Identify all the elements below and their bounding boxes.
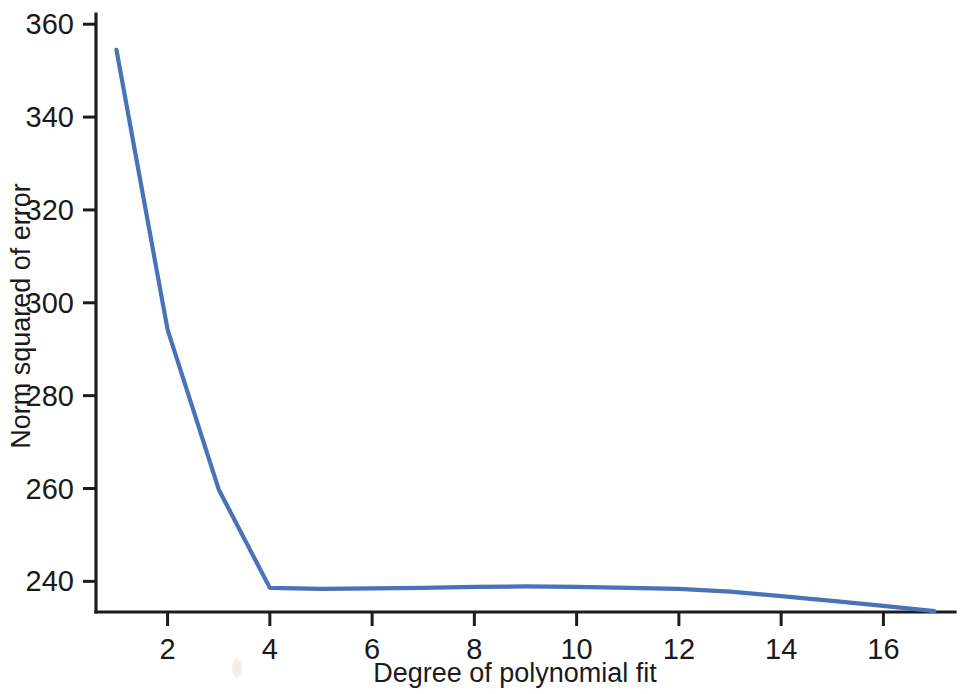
y-axis-title: Norm squared of error xyxy=(6,183,36,449)
chart-background xyxy=(0,0,969,694)
x-tick-label: 12 xyxy=(663,633,695,665)
chart-figure: 240260280300320340360 246810121416 Norm … xyxy=(0,0,969,694)
y-tick-label: 260 xyxy=(26,473,74,505)
y-tick-label: 240 xyxy=(26,565,74,597)
x-axis-title: Degree of polynomial fit xyxy=(373,658,657,688)
x-tick-label: 4 xyxy=(262,633,278,665)
y-tick-label: 340 xyxy=(26,101,74,133)
line-chart: 240260280300320340360 246810121416 Norm … xyxy=(0,0,969,694)
y-tick-label: 360 xyxy=(26,8,74,40)
x-tick-label: 16 xyxy=(867,633,899,665)
x-tick-label: 2 xyxy=(160,633,176,665)
x-tick-label: 14 xyxy=(765,633,797,665)
scan-artifact xyxy=(232,658,242,678)
